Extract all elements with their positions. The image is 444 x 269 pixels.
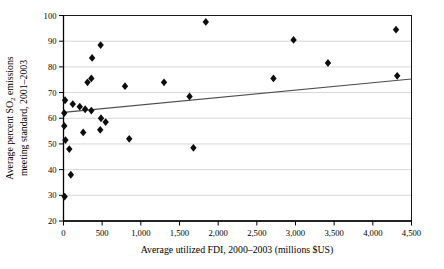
x-tick-label: 2,500 (247, 228, 266, 238)
data-point (102, 118, 108, 126)
trend-line-group (64, 79, 412, 112)
data-point (161, 78, 167, 86)
data-point (68, 171, 74, 179)
scatter-plot-svg: 203040506070809010005001,0001,5002,0002,… (0, 0, 444, 269)
data-point (190, 144, 196, 152)
y-axis-title: Average percent SO2 emissionsmeeting sta… (4, 56, 29, 179)
trend-line (64, 79, 412, 112)
y-tick-label: 70 (48, 88, 57, 98)
data-point (70, 100, 76, 108)
x-tick-label: 3,500 (324, 228, 343, 238)
data-point (88, 107, 94, 115)
y-tick-label: 100 (44, 11, 57, 21)
data-point (77, 103, 83, 111)
x-tick-label: 500 (96, 228, 109, 238)
data-point (203, 18, 209, 26)
y-tick-label: 60 (48, 113, 57, 123)
y-tick-label: 40 (48, 165, 57, 175)
x-tick-label: 2,000 (208, 228, 227, 238)
data-point (80, 128, 86, 136)
y-tick-label: 50 (48, 139, 57, 149)
x-tick-label: 0 (61, 228, 65, 238)
y-tick-label: 30 (48, 190, 57, 200)
y-tick-label: 20 (48, 216, 57, 226)
x-tick-label: 4,000 (363, 228, 382, 238)
y-axis-title-line: meeting standard, 2001–2003 (18, 60, 29, 176)
y-tick-label: 90 (48, 36, 57, 46)
data-point (122, 82, 128, 90)
y-tick-label: 80 (48, 62, 57, 72)
x-tick-label: 1,000 (131, 228, 150, 238)
x-tick-label: 4,500 (402, 228, 421, 238)
data-point (270, 75, 276, 83)
data-point (394, 72, 400, 80)
x-tick-label: 3,000 (286, 228, 305, 238)
data-point (97, 126, 103, 134)
data-point (61, 109, 67, 117)
data-point (290, 36, 296, 44)
data-point (325, 59, 331, 67)
data-point (393, 26, 399, 34)
y-axis-title-line: Average percent SO2 emissions (4, 56, 17, 179)
x-tick-label: 1,500 (170, 228, 189, 238)
data-point (97, 41, 103, 49)
figure-container: 203040506070809010005001,0001,5002,0002,… (0, 0, 444, 269)
axis-ticks-group (59, 16, 412, 226)
data-point (61, 193, 67, 201)
x-axis-title: Average utilized FDI, 2000–2003 (million… (141, 244, 333, 256)
data-point (98, 114, 104, 122)
data-point (126, 135, 132, 143)
data-point (89, 54, 95, 62)
data-point (61, 122, 67, 130)
gridlines-group (64, 41, 412, 195)
data-point (82, 105, 88, 113)
data-point (186, 93, 192, 101)
data-points-group (61, 18, 400, 200)
data-point (62, 96, 68, 104)
data-point (66, 145, 72, 153)
